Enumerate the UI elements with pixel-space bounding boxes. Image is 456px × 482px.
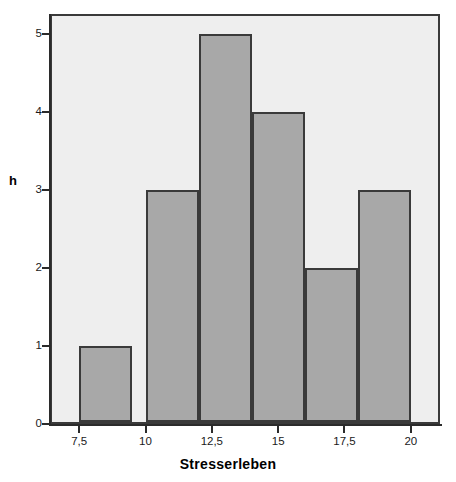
x-tick-label: 12,5	[187, 436, 237, 448]
y-tick-mark	[42, 345, 49, 347]
x-tick-label: 15	[253, 436, 303, 448]
x-tick-mark	[277, 426, 279, 433]
y-tick-label: 4	[16, 106, 42, 118]
histogram-chart: 012345 h Stresserleben 7,51012,51517,520	[0, 0, 456, 482]
x-tick-label: 10	[121, 436, 171, 448]
y-tick-mark	[42, 189, 49, 191]
y-tick-label: 5	[16, 28, 42, 40]
x-tick-label: 7,5	[54, 436, 104, 448]
y-axis-line	[49, 14, 51, 426]
y-tick-mark	[42, 111, 49, 113]
histogram-bar	[199, 34, 252, 422]
plot-area	[50, 14, 440, 424]
histogram-bar	[79, 346, 132, 422]
x-tick-mark	[410, 426, 412, 433]
x-axis-title: Stresserleben	[0, 456, 456, 472]
x-tick-label: 20	[386, 436, 436, 448]
x-tick-mark	[211, 426, 213, 433]
x-tick-mark	[343, 426, 345, 433]
x-tick-mark	[78, 426, 80, 433]
histogram-bar	[305, 268, 358, 422]
y-tick-label: 0	[16, 418, 42, 430]
y-axis-tick-labels: 012345	[8, 0, 42, 482]
y-tick-label: 1	[16, 340, 42, 352]
y-tick-mark	[42, 267, 49, 269]
histogram-bar	[358, 190, 411, 422]
histogram-bar	[252, 112, 305, 422]
x-axis-line	[49, 424, 442, 426]
histogram-bar	[146, 190, 199, 422]
y-tick-mark	[42, 33, 49, 35]
x-tick-label: 17,5	[319, 436, 369, 448]
y-tick-label: 2	[16, 262, 42, 274]
y-tick-label: 3	[16, 184, 42, 196]
y-tick-mark	[42, 423, 49, 425]
y-axis-title: h	[9, 173, 17, 188]
x-tick-mark	[145, 426, 147, 433]
